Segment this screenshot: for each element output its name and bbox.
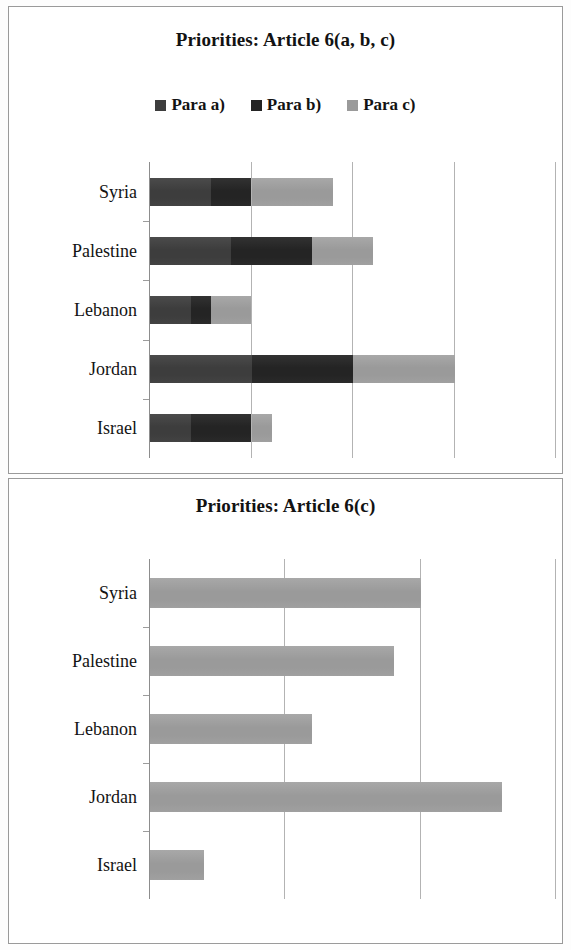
- category-label-palestine: Palestine: [9, 242, 137, 260]
- bar-segment[interactable]: [150, 178, 211, 206]
- legend-item-para-a[interactable]: Para a): [155, 95, 224, 115]
- category-label-syria: Syria: [9, 584, 137, 602]
- axis-tick: [143, 399, 149, 400]
- category-label-lebanon: Lebanon: [9, 301, 137, 319]
- bar-segment[interactable]: [191, 414, 252, 442]
- bar-segment[interactable]: [252, 355, 354, 383]
- charts-page: Priorities: Article 6(a, b, c) Para a) P…: [0, 0, 571, 950]
- bar-segment[interactable]: [150, 355, 252, 383]
- axis-tick: [143, 221, 149, 222]
- bar-segment[interactable]: [191, 296, 211, 324]
- bar-segment[interactable]: [312, 237, 373, 265]
- category-label-jordan: Jordan: [9, 360, 137, 378]
- axis-tick: [143, 831, 149, 832]
- chart-title-stacked: Priorities: Article 6(a, b, c): [9, 29, 562, 51]
- bar-segment[interactable]: [353, 355, 455, 383]
- gridline: [454, 162, 455, 458]
- bar-segment[interactable]: [150, 714, 312, 744]
- bar-segment[interactable]: [150, 850, 204, 880]
- gridline: [352, 162, 353, 458]
- legend-swatch-para-a: [155, 100, 166, 111]
- legend-swatch-para-b: [251, 100, 262, 111]
- bar-segment[interactable]: [211, 178, 252, 206]
- legend-item-para-c[interactable]: Para c): [347, 95, 415, 115]
- plot-area-stacked: [149, 162, 555, 458]
- axis-tick: [143, 340, 149, 341]
- bar-segment[interactable]: [231, 237, 312, 265]
- category-label-palestine: Palestine: [9, 652, 137, 670]
- bar-segment[interactable]: [150, 782, 502, 812]
- bar-segment[interactable]: [150, 646, 394, 676]
- gridline: [555, 162, 556, 458]
- plot-area-single: [149, 559, 555, 899]
- category-label-lebanon: Lebanon: [9, 720, 137, 738]
- legend-item-para-b[interactable]: Para b): [251, 95, 321, 115]
- category-label-israel: Israel: [9, 419, 137, 437]
- axis-tick: [143, 280, 149, 281]
- chart-panel-stacked: Priorities: Article 6(a, b, c) Para a) P…: [8, 6, 563, 474]
- bar-segment[interactable]: [252, 414, 272, 442]
- category-label-jordan: Jordan: [9, 788, 137, 806]
- bar-segment[interactable]: [150, 296, 191, 324]
- gridline: [555, 559, 556, 899]
- legend-swatch-para-c: [347, 100, 358, 111]
- category-label-israel: Israel: [9, 856, 137, 874]
- bar-segment[interactable]: [150, 414, 191, 442]
- bar-segment[interactable]: [252, 178, 333, 206]
- axis-tick: [143, 627, 149, 628]
- axis-tick: [143, 763, 149, 764]
- chart-panel-single: Priorities: Article 6(c) SyriaPalestineL…: [8, 478, 563, 944]
- chart-legend: Para a) Para b) Para c): [9, 95, 562, 115]
- category-label-syria: Syria: [9, 183, 137, 201]
- gridline: [420, 559, 421, 899]
- bar-segment[interactable]: [150, 578, 421, 608]
- axis-tick: [143, 695, 149, 696]
- bar-segment[interactable]: [150, 237, 231, 265]
- legend-label-para-a: Para a): [171, 95, 224, 115]
- legend-label-para-c: Para c): [363, 95, 415, 115]
- legend-label-para-b: Para b): [267, 95, 321, 115]
- bar-segment[interactable]: [211, 296, 252, 324]
- chart-title-single: Priorities: Article 6(c): [9, 495, 562, 517]
